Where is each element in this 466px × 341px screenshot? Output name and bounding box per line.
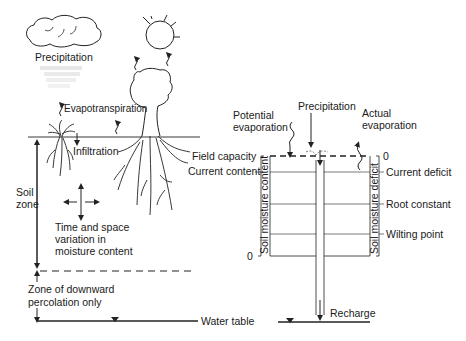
rain-icon: [40, 66, 82, 88]
left-axis-zero: 0: [247, 250, 253, 262]
soil-zone-label-1: Soil: [16, 186, 34, 198]
sun-icon: [143, 15, 180, 49]
recharge-label: Recharge: [330, 307, 376, 319]
soil-zone-label-2: zone: [16, 198, 39, 210]
evapotranspiration-label: Evapotranspiration: [64, 103, 147, 114]
current-deficit-label: Current deficit: [386, 166, 451, 178]
actual-evaporation-label-2: evaporation: [362, 119, 417, 131]
cloud-icon: [27, 15, 102, 47]
field-capacity-label: Field capacity: [192, 150, 257, 162]
soil-moisture-content-axis-label: Soil moisture content: [258, 156, 270, 254]
potential-evaporation-label-1: Potential: [233, 109, 274, 121]
variation-label-1: Time and space: [55, 221, 129, 233]
soil-moisture-deficit-axis-label: Soil moisture deficit: [368, 163, 380, 254]
right-axis-zero: 0: [383, 150, 389, 162]
potential-evaporation-label-2: evaporation: [233, 121, 288, 133]
percolation-label-2: percolation only: [28, 296, 102, 308]
plant-icon: [47, 120, 75, 176]
soil-moisture-diagram: Precipitation: [0, 0, 466, 341]
soil-moisture-bucket: [270, 150, 370, 318]
water-table-label: Water table: [201, 315, 254, 327]
current-content-label: Current content: [188, 165, 260, 177]
four-way-arrow-icon: [66, 186, 97, 218]
root-constant-label: Root constant: [386, 198, 451, 210]
wilting-point-label: Wilting point: [386, 228, 443, 240]
precipitation-label-right: Precipitation: [298, 100, 356, 112]
variation-label-3: moisture content: [55, 245, 133, 257]
variation-label-2: variation in: [55, 233, 106, 245]
precipitation-label-left: Precipitation: [35, 51, 93, 63]
actual-evaporation-label-1: Actual: [362, 107, 391, 119]
infiltration-label: Infiltration: [73, 145, 119, 157]
percolation-label-1: Zone of downward: [28, 283, 115, 295]
tree-roots: [114, 136, 190, 215]
